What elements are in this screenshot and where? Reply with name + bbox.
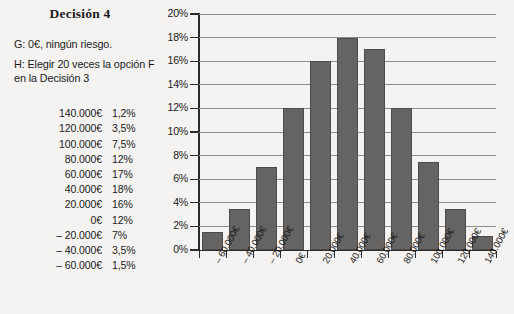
y-axis-tick [190, 155, 199, 156]
y-axis-tick [190, 179, 199, 180]
table-cell-percent: 1,2% [112, 106, 164, 121]
table-cell-percent: 17% [112, 167, 164, 182]
distribution-table: 140.000€1,2%120.000€3,5%100.000€7,5%80.0… [0, 106, 164, 273]
table-cell-percent: 1,5% [112, 258, 164, 273]
option-g-description: G: 0€, ningún riesgo. [14, 38, 164, 50]
table-row: 0€12% [0, 212, 164, 227]
table-cell-amount: 60.000€ [0, 167, 112, 182]
table-cell-percent: 16% [112, 197, 164, 212]
table-cell-amount: 140.000€ [0, 106, 112, 121]
table-row: 80.000€12% [0, 152, 164, 167]
y-axis-tick [190, 226, 199, 227]
x-axis-tick-label: 0€ [293, 251, 308, 265]
chart-bar [337, 38, 358, 250]
table-cell-percent: 12% [112, 212, 164, 227]
distribution-bar-chart: 0%2%4%6%8%10%12%14%16%18%20% – 60.000€– … [168, 0, 514, 314]
x-axis-tick [199, 251, 200, 258]
distribution-table-body: 140.000€1,2%120.000€3,5%100.000€7,5%80.0… [0, 106, 164, 273]
y-axis-tick-label: 2% [164, 219, 188, 231]
table-row: 60.000€17% [0, 167, 164, 182]
table-cell-percent: 7% [112, 228, 164, 243]
plot-area [199, 14, 496, 250]
table-cell-amount: 120.000€ [0, 121, 112, 136]
table-cell-amount: 80.000€ [0, 152, 112, 167]
y-axis-tick [190, 13, 199, 14]
option-h-description: H: Elegir 20 veces la opción F en la Dec… [14, 58, 166, 85]
table-cell-percent: 18% [112, 182, 164, 197]
page-title: Decisión 4 [0, 6, 160, 22]
y-axis-tick [190, 37, 199, 38]
table-cell-percent: 3,5% [112, 121, 164, 136]
y-axis-tick [190, 202, 199, 203]
y-axis-tick-label: 18% [164, 31, 188, 43]
y-axis-tick [190, 249, 199, 250]
table-row: – 20.000€7% [0, 228, 164, 243]
y-axis-tick [190, 108, 199, 109]
table-cell-amount: 100.000€ [0, 136, 112, 151]
table-cell-amount: – 60.000€ [0, 258, 112, 273]
table-cell-amount: – 20.000€ [0, 228, 112, 243]
table-cell-percent: 12% [112, 152, 164, 167]
table-cell-amount: 20.000€ [0, 197, 112, 212]
chart-bar [364, 49, 385, 250]
y-axis-tick-label: 14% [164, 78, 188, 90]
table-row: 100.000€7,5% [0, 136, 164, 151]
y-axis-tick-label: 0% [164, 243, 188, 255]
y-axis-tick-label: 16% [164, 54, 188, 66]
table-cell-amount: – 40.000€ [0, 243, 112, 258]
x-axis-line [190, 250, 496, 251]
table-row: 40.000€18% [0, 182, 164, 197]
table-cell-percent: 7,5% [112, 136, 164, 151]
table-cell-amount: 0€ [0, 212, 112, 227]
y-axis-tick [190, 61, 199, 62]
y-axis-tick-label: 8% [164, 149, 188, 161]
table-row: 140.000€1,2% [0, 106, 164, 121]
y-axis-tick-label: 10% [164, 125, 188, 137]
table-row: 120.000€3,5% [0, 121, 164, 136]
y-axis-tick-label: 20% [164, 7, 188, 19]
table-row: 20.000€16% [0, 197, 164, 212]
y-axis-tick-label: 6% [164, 172, 188, 184]
table-row: – 60.000€1,5% [0, 258, 164, 273]
chart-bar [391, 108, 412, 250]
y-axis-tick [190, 84, 199, 85]
y-axis-tick [190, 131, 199, 132]
y-axis-tick-label: 12% [164, 101, 188, 113]
table-cell-amount: 40.000€ [0, 182, 112, 197]
table-cell-percent: 3,5% [112, 243, 164, 258]
chart-bar [310, 61, 331, 250]
decision-info-panel: Decisión 4 G: 0€, ningún riesgo. H: Eleg… [0, 0, 168, 314]
table-row: – 40.000€3,5% [0, 243, 164, 258]
y-axis-tick-label: 4% [164, 196, 188, 208]
